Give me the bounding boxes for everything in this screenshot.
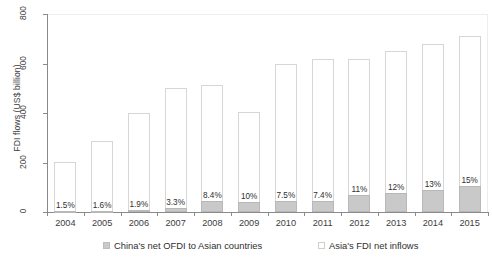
fdi-flows-bar-chart: FDI flows (US$ billion) 02004006008001.5… (0, 0, 492, 263)
x-axis-tick-mark (121, 212, 122, 216)
bar-asia-fdi-net-inflows (275, 64, 297, 212)
x-axis-tick-mark (488, 212, 489, 216)
bar-china-net-ofdi (238, 202, 260, 212)
legend-swatch-asia-fdi (318, 242, 325, 249)
bar-china-net-ofdi (201, 201, 223, 212)
x-axis-tick-mark (415, 212, 416, 216)
bar-china-net-ofdi (312, 201, 334, 212)
x-axis-tick-mark (451, 212, 452, 216)
y-axis-tick-label: 0 (18, 191, 28, 231)
bar-china-net-ofdi (348, 195, 370, 212)
x-axis-tick-mark (47, 212, 48, 216)
y-axis-tick-mark (43, 113, 47, 114)
bar-china-net-ofdi (459, 186, 481, 212)
bar-china-net-ofdi (275, 201, 297, 212)
bar-asia-fdi-net-inflows (128, 113, 150, 212)
bar-china-net-ofdi (128, 210, 150, 212)
x-axis-tick-mark (378, 212, 379, 216)
y-axis-tick-mark (43, 163, 47, 164)
plot-top-frame (47, 14, 488, 15)
bar-percentage-label: 15% (448, 176, 492, 185)
legend-swatch-china-ofdi (103, 242, 110, 249)
bar-china-net-ofdi (385, 193, 407, 212)
y-axis-line (47, 14, 48, 213)
x-axis-tick-label: 2015 (448, 218, 492, 228)
y-axis-tick-mark (43, 64, 47, 65)
x-axis-tick-mark (194, 212, 195, 216)
x-axis-tick-mark (304, 212, 305, 216)
legend-entry-asia-fdi: Asia's FDI net inflows (318, 240, 418, 251)
x-axis-tick-mark (84, 212, 85, 216)
bar-asia-fdi-net-inflows (165, 88, 187, 212)
legend-entry-china-ofdi: China's net OFDI to Asian countries (103, 240, 262, 251)
y-axis-tick-mark (43, 14, 47, 15)
bar-asia-fdi-net-inflows (312, 59, 334, 212)
legend-label-asia-fdi: Asia's FDI net inflows (329, 240, 418, 251)
bar-china-net-ofdi (422, 190, 444, 212)
x-axis-tick-mark (157, 212, 158, 216)
bar-china-net-ofdi (165, 208, 187, 212)
x-axis-tick-mark (341, 212, 342, 216)
legend-label-china-ofdi: China's net OFDI to Asian countries (114, 240, 262, 251)
y-axis-tick-label: 400 (18, 92, 28, 132)
y-axis-tick-label: 200 (18, 142, 28, 182)
x-axis-tick-mark (268, 212, 269, 216)
y-axis-tick-label: 600 (18, 43, 28, 83)
bar-china-net-ofdi (91, 211, 113, 213)
chart-legend: China's net OFDI to Asian countries Asia… (0, 240, 492, 260)
y-axis-tick-label: 800 (18, 0, 28, 33)
x-axis-tick-mark (231, 212, 232, 216)
bar-china-net-ofdi (54, 211, 76, 213)
